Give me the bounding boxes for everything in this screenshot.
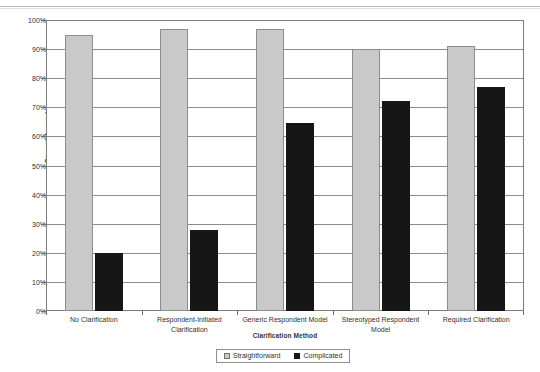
gridline [47,107,523,108]
legend-label: Straightforward [233,352,280,359]
y-tick-label: 70% [6,104,46,111]
y-axis-ticks: 100%90%80%70%60%50%40%30%20%10%0% [0,20,46,311]
gridline [47,49,523,50]
y-tick-label: 0% [6,308,46,315]
gridline [47,282,523,283]
gridline [47,253,523,254]
gridline [47,78,523,79]
y-tick-label: 50% [6,162,46,169]
legend-swatch-icon [224,353,230,359]
y-tick-label: 60% [6,133,46,140]
legend-swatch-icon [294,353,300,359]
legend-entry[interactable]: Complicated [294,352,342,359]
y-tick-label: 30% [6,220,46,227]
legend: StraightforwardComplicated [216,349,350,363]
y-tick-label: 80% [6,75,46,82]
gridline [47,136,523,137]
y-tick-label: 100% [6,17,46,24]
legend-label: Complicated [303,352,342,359]
x-axis-title: Clarification Method [46,332,524,339]
y-tick-label: 90% [6,46,46,53]
bar-chart: Percent Accurate 100%90%80%70%60%50%40%3… [0,0,540,372]
x-tick-label: Generic Respondent Model [237,315,333,325]
legend-entry[interactable]: Straightforward [224,352,280,359]
gridline [47,166,523,167]
gridline [47,195,523,196]
y-tick-label: 40% [6,191,46,198]
y-tick-label: 20% [6,249,46,256]
x-tick-label: Required Clarification [428,315,524,325]
x-tick-label: No Clarification [46,315,142,325]
y-tick-label: 10% [6,278,46,285]
gridline [47,224,523,225]
plot-area [46,20,524,311]
